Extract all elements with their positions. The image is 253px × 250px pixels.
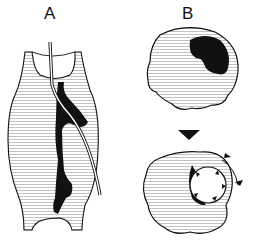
panel-a-vessel (8, 42, 100, 230)
panel-b-cross-section-after (143, 152, 243, 234)
panel-b-cross-section-before (147, 28, 238, 110)
transition-arrow-icon (178, 130, 200, 140)
figure-illustration (0, 0, 253, 250)
